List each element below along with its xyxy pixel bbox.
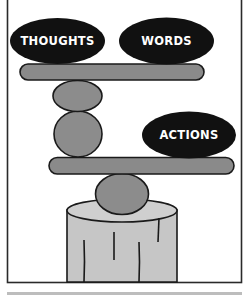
thoughts-stone: THOUGHTS [10,18,105,64]
actions-stone: ACTIONS [142,112,236,159]
balancing-diagram: ACTIONS THOUGHTS WORDS [0,0,250,295]
base-stone [96,174,149,215]
bark-line [139,242,140,282]
thoughts-label: THOUGHTS [20,34,94,48]
bark-line [84,240,85,282]
middle-balance-stone [54,111,102,157]
top-plank [20,64,204,80]
actions-label: ACTIONS [159,128,218,142]
bark-line [158,218,159,242]
lower-plank [49,158,234,175]
words-stone: WORDS [119,18,214,65]
upper-balance-stone [53,81,102,112]
words-label: WORDS [141,34,192,48]
